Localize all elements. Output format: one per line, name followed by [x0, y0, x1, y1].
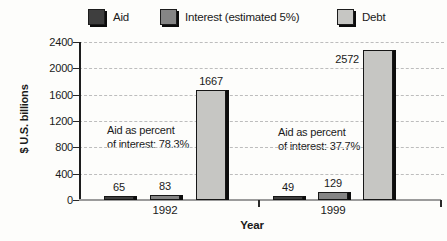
value-label-65: 65 — [97, 181, 141, 193]
y-tick-label-0: 0 — [43, 194, 73, 206]
value-label-49: 49 — [266, 181, 310, 193]
value-label-83: 83 — [143, 180, 187, 192]
legend-item-aid: Aid — [88, 9, 129, 25]
gridline-2400 — [79, 42, 444, 43]
annotation-line: Aid as percent — [107, 124, 189, 138]
bar-debt-1992 — [196, 90, 226, 200]
legend-label-interest: Interest (estimated 5%) — [185, 11, 299, 23]
y-tick-2400 — [73, 42, 79, 43]
y-tick-label-400: 400 — [43, 168, 73, 180]
legend-swatch-aid — [88, 9, 105, 25]
y-tick-2000 — [73, 68, 79, 69]
x-axis-title: Year — [222, 219, 282, 231]
legend-item-debt: Debt — [337, 9, 386, 25]
legend-swatch-debt — [337, 9, 354, 25]
y-axis-line — [79, 42, 81, 201]
y-tick-label-2000: 2000 — [43, 62, 73, 74]
y-tick-800 — [73, 147, 79, 148]
legend-item-interest: Interest (estimated 5%) — [160, 9, 299, 25]
y-tick-label-800: 800 — [43, 141, 73, 153]
bar-debt-1999 — [363, 50, 393, 200]
legend-label-aid: Aid — [113, 11, 129, 23]
y-tick-label-1200: 1200 — [43, 115, 73, 127]
y-axis-title: $ U.S. billions — [18, 69, 30, 169]
y-tick-0 — [73, 200, 79, 201]
y-tick-label-2400: 2400 — [43, 36, 73, 48]
annotation-1999: Aid as percent of interest: 37.7% — [278, 126, 360, 153]
bar-chart-figure: Aid Interest (estimated 5%) Debt $ U.S. … — [0, 0, 447, 241]
category-label-1999: 1999 — [303, 204, 363, 216]
y-tick-400 — [73, 174, 79, 175]
category-label-1992: 1992 — [135, 204, 195, 216]
legend-swatch-interest — [160, 9, 177, 25]
annotation-line: Aid as percent — [278, 126, 360, 140]
value-label-1667: 1667 — [189, 75, 233, 87]
x-tick-1 — [440, 200, 442, 207]
y-tick-1200 — [73, 121, 79, 122]
annotation-line: of interest: 78.3% — [107, 138, 189, 152]
bar-interest-1999 — [318, 192, 348, 200]
y-tick-label-1600: 1600 — [43, 89, 73, 101]
legend-label-debt: Debt — [362, 11, 386, 23]
y-tick-1600 — [73, 95, 79, 96]
value-label-129: 129 — [311, 177, 355, 189]
bar-interest-1992 — [150, 195, 180, 200]
x-tick-0 — [258, 200, 260, 207]
bar-aid-1999 — [273, 196, 303, 200]
bar-aid-1992 — [104, 196, 134, 200]
value-label-2572: 2572 — [315, 53, 359, 65]
